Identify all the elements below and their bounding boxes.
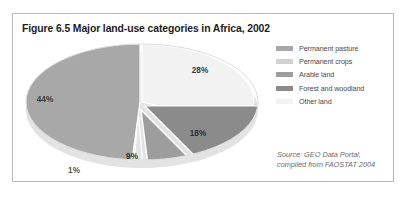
legend-item-permanent-pasture: Permanent pasture [276, 42, 402, 55]
legend-swatch-permanent-crops [276, 59, 293, 64]
legend-label-permanent-crops: Permanent crops [299, 57, 352, 66]
figure-title: Figure 6.5 Major land-use categories in … [22, 23, 270, 34]
pie-label-forest-and-woodland: 18% [190, 129, 207, 138]
legend-item-permanent-crops: Permanent crops [276, 55, 402, 68]
figure-container: Figure 6.5 Major land-use categories in … [0, 0, 414, 203]
legend-swatch-other-land [276, 99, 293, 104]
pie-label-permanent-pasture: 44% [37, 95, 54, 104]
legend-item-arable-land: Arable land [276, 68, 402, 81]
pie-label-other-land: 28% [192, 66, 209, 75]
legend-label-forest-and-woodland: Forest and woodland [299, 84, 364, 93]
legend-swatch-arable-land [276, 72, 293, 77]
pie-label-arable-land: 9% [126, 152, 139, 161]
pie-label-permanent-crops: 1% [68, 166, 81, 175]
legend-item-other-land: Other land [276, 95, 402, 108]
legend-label-other-land: Other land [299, 97, 332, 106]
legend-swatch-permanent-pasture [276, 46, 293, 51]
legend-label-permanent-pasture: Permanent pasture [299, 44, 358, 53]
source-line-1: Source: GEO Data Portal, [277, 150, 397, 160]
source-line-2: compiled from FAOSTAT 2004 [277, 160, 397, 170]
legend-label-arable-land: Arable land [299, 70, 334, 79]
legend-item-forest-and-woodland: Forest and woodland [276, 82, 402, 95]
source-note: Source: GEO Data Portal, compiled from F… [277, 150, 397, 170]
legend-swatch-forest-and-woodland [276, 86, 293, 91]
pie-chart: 28% 18% 9% 1% 44% [22, 40, 262, 176]
chart-legend: Permanent pasture Permanent crops Arable… [276, 42, 402, 108]
